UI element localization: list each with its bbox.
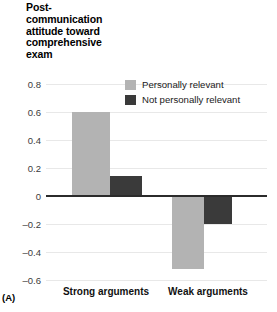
page-title-line-1: communication xyxy=(26,14,151,26)
y-axis-tick-label: 0.2 xyxy=(28,163,41,174)
page-title-line-4: exam xyxy=(26,49,151,61)
legend-swatch-icon-not-personally-relevant xyxy=(125,95,136,105)
y-axis-tick-label: –0.6 xyxy=(23,275,42,286)
legend: Personally relevant Not personally relev… xyxy=(125,78,240,108)
bar-weak-arguments-not-personally-relevant xyxy=(204,196,232,224)
plot-area: 0.80.60.40.20–0.2–0.4–0.6 xyxy=(46,84,267,280)
y-axis-tick-label: –0.2 xyxy=(23,219,42,230)
x-axis-label-strong-arguments: Strong arguments xyxy=(58,286,154,297)
legend-label-not-personally-relevant: Not personally relevant xyxy=(142,94,240,105)
y-axis-tick-label: 0 xyxy=(36,191,41,202)
gridline xyxy=(46,280,267,281)
y-axis-tick-label: –0.4 xyxy=(23,247,42,258)
x-axis-label-weak-arguments: Weak arguments xyxy=(160,286,256,297)
gridline xyxy=(46,252,267,253)
legend-swatch-icon-personally-relevant xyxy=(125,80,136,90)
bar-weak-arguments-personally-relevant xyxy=(172,196,204,269)
legend-label-personally-relevant: Personally relevant xyxy=(142,79,224,90)
y-axis-tick-label: 0.4 xyxy=(28,135,41,146)
gridline xyxy=(46,224,267,225)
zero-axis-line xyxy=(46,195,267,197)
panel-label: (A) xyxy=(2,292,15,303)
legend-item-personally-relevant: Personally relevant xyxy=(125,78,240,91)
bar-strong-arguments-not-personally-relevant xyxy=(110,176,142,196)
page-title: Post-communicationattitude towardcompreh… xyxy=(26,2,151,61)
y-axis-tick-label: 0.8 xyxy=(28,79,41,90)
y-axis-tick-label: 0.6 xyxy=(28,107,41,118)
bar-strong-arguments-personally-relevant xyxy=(72,112,110,196)
legend-item-not-personally-relevant: Not personally relevant xyxy=(125,93,240,106)
